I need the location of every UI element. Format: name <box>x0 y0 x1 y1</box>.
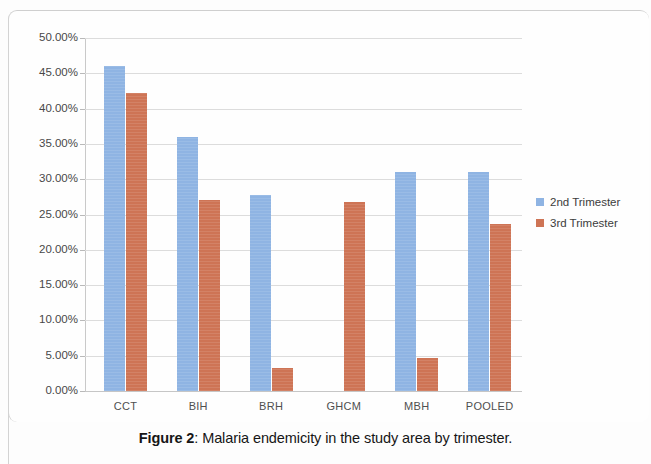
bar[interactable] <box>344 202 365 391</box>
figure-caption-label: Figure 2 <box>139 430 195 446</box>
page-left-rule <box>8 18 9 464</box>
gridline <box>85 320 522 321</box>
y-axis-tick <box>80 391 85 392</box>
bar[interactable] <box>490 224 511 391</box>
gridline <box>85 391 522 392</box>
gridline <box>85 73 522 74</box>
bar[interactable] <box>177 137 198 391</box>
bar[interactable] <box>104 66 125 391</box>
y-axis-tick <box>80 144 85 145</box>
plot-area <box>85 38 522 391</box>
bar-group <box>322 38 365 391</box>
bar[interactable] <box>272 368 293 391</box>
figure-caption: Figure 2: Malaria endemicity in the stud… <box>0 430 651 446</box>
gridline <box>85 38 522 39</box>
y-axis-tick <box>80 250 85 251</box>
figure-caption-text: Malaria endemicity in the study area by … <box>202 430 512 446</box>
gridline <box>85 285 522 286</box>
bar[interactable] <box>417 358 438 391</box>
y-axis-tick <box>80 215 85 216</box>
x-axis-tick-label: POOLED <box>445 400 535 412</box>
figure-page: 50.00%45.00%40.00%35.00%30.00%25.00%20.0… <box>0 0 651 464</box>
bar-group <box>395 38 438 391</box>
figure-caption-separator: : <box>194 430 202 446</box>
legend-item[interactable]: 2nd Trimester <box>536 196 620 208</box>
gridline <box>85 215 522 216</box>
gridline <box>85 250 522 251</box>
gridline <box>85 109 522 110</box>
legend-item[interactable]: 3rd Trimester <box>536 217 620 229</box>
gridline <box>85 356 522 357</box>
bar-group <box>104 38 147 391</box>
bar[interactable] <box>395 172 416 391</box>
gridline <box>85 179 522 180</box>
y-axis-tick <box>80 356 85 357</box>
bar-group <box>177 38 220 391</box>
bar-group <box>468 38 511 391</box>
y-axis-tick <box>80 179 85 180</box>
gridline <box>85 144 522 145</box>
bar[interactable] <box>199 200 220 391</box>
legend-swatch-icon <box>536 198 544 206</box>
y-axis-tick <box>80 73 85 74</box>
chart-legend: 2nd Trimester3rd Trimester <box>536 196 620 238</box>
legend-item-label: 3rd Trimester <box>550 217 618 229</box>
legend-swatch-icon <box>536 219 544 227</box>
bar[interactable] <box>250 195 271 391</box>
y-axis-tick <box>80 109 85 110</box>
y-axis-tick <box>80 38 85 39</box>
legend-item-label: 2nd Trimester <box>550 196 620 208</box>
bar[interactable] <box>468 172 489 391</box>
y-axis-tick <box>80 320 85 321</box>
bar[interactable] <box>126 93 147 391</box>
bar-group <box>250 38 293 391</box>
y-axis-tick <box>80 285 85 286</box>
